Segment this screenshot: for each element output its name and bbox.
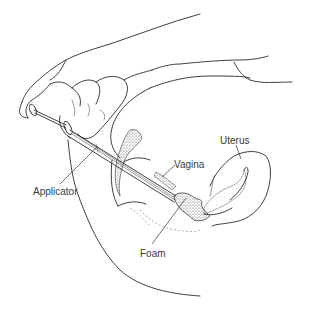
body-outline <box>68 76 250 296</box>
medical-illustration: Applicator Vagina Uterus Foam <box>0 0 311 310</box>
label-foam: Foam <box>140 249 166 259</box>
vagina-drawing <box>115 129 176 196</box>
label-applicator: Applicator <box>33 187 77 197</box>
foam-leader <box>152 198 186 244</box>
leader-lines <box>60 145 241 244</box>
label-vagina: Vagina <box>174 160 204 170</box>
uterus-drawing <box>204 152 271 227</box>
uterus-leader <box>236 145 241 159</box>
applicator-leader <box>60 146 98 184</box>
hand-drawing <box>19 14 292 139</box>
label-uterus: Uterus <box>220 136 249 146</box>
line-art-drawing <box>0 0 311 310</box>
